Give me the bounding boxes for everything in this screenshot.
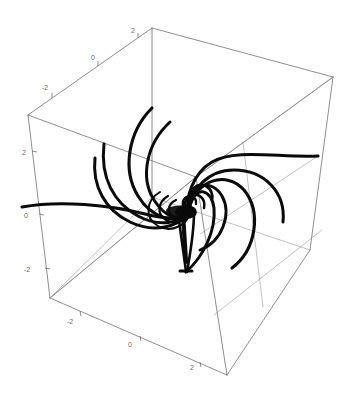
spiral-trajectories: [22, 108, 318, 272]
tick-label-z-2: 2: [22, 149, 26, 156]
tick-label-y-0: 0: [91, 54, 95, 61]
box-edge-bottom-right: [227, 250, 310, 375]
grid-right-face-z1: [196, 77, 333, 177]
box-edge-top-back-right: [152, 28, 333, 77]
box-edge-top-front-left: [28, 115, 196, 177]
plot-canvas: 2 0 -2 -2 0 2 -2 0 2: [0, 0, 350, 396]
tick-label-x-2: 2: [190, 364, 194, 371]
tick-label-z-neg2: -2: [24, 266, 30, 273]
tick-label-y-neg2: -2: [42, 84, 48, 91]
grid-floor-diagonal-1: [50, 177, 196, 298]
tick-label-z-0: 0: [24, 212, 28, 219]
three-d-plot-figure: [0, 0, 350, 396]
tick-z-neg2: [45, 268, 50, 269]
box-edge-vertical-front: [196, 177, 227, 375]
tick-label-x-0: 0: [128, 341, 132, 348]
grid-right-face-z2: [200, 156, 318, 234]
tick-label-y-2: 2: [131, 27, 135, 34]
box-edge-top-back-left: [28, 28, 152, 115]
spiral-arm-7: [188, 170, 283, 222]
bounding-box-frame: [28, 28, 333, 375]
tick-label-x-neg2: -2: [67, 318, 73, 325]
focus-blob-outer: [166, 206, 194, 217]
grid-right-face-z3: [214, 230, 322, 315]
tick-x-0: [140, 336, 141, 341]
cusp-spike: [183, 214, 186, 262]
tick-x-2: [200, 362, 201, 367]
box-edge-vertical-right: [310, 77, 333, 250]
